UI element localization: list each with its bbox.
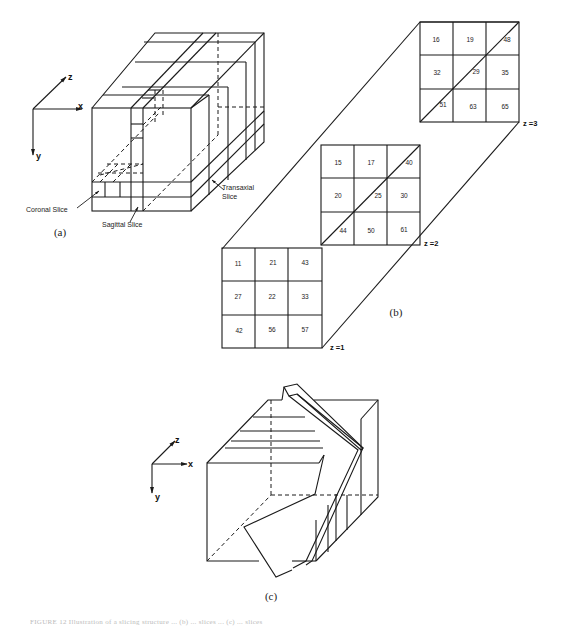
- cell: 22: [268, 293, 276, 300]
- cell: 21: [269, 259, 277, 266]
- slice-grid-z1: 11 21 43 27 22 33 42 56 57 z =1: [222, 248, 344, 352]
- axis-y-label: y: [155, 492, 160, 502]
- cell: 27: [234, 293, 242, 300]
- transaxial-slice-label-2: Slice: [222, 193, 237, 200]
- cell: 32: [433, 69, 441, 76]
- coronal-slice-label: Coronal Slice: [26, 206, 68, 213]
- panel-b-label: (b): [390, 306, 403, 319]
- slice-label-z1: z =1: [330, 343, 344, 352]
- axis-z-label: z: [68, 72, 73, 82]
- panel-b: 16 19 48 32 29 35 51 63 65 z =3 15 17 40…: [222, 22, 537, 352]
- slice-label-z2: z =2: [424, 239, 438, 248]
- cell: 35: [501, 69, 509, 76]
- slice-grid-z3: 16 19 48 32 29 35 51 63 65 z =3: [420, 22, 537, 128]
- cell: 19: [466, 36, 474, 43]
- panel-c: z x y: [152, 384, 378, 603]
- axis-y-label: y: [36, 151, 41, 161]
- cell: 56: [268, 326, 276, 333]
- panel-a-label: (a): [54, 226, 67, 239]
- slice-label-z3: z =3: [523, 119, 537, 128]
- cell: 11: [235, 260, 242, 267]
- cell: 51: [439, 101, 447, 108]
- axis-z-label: z: [175, 435, 180, 445]
- cell: 20: [334, 192, 342, 199]
- figure-caption: FIGURE 12 Illustration of a slicing stru…: [30, 618, 550, 626]
- cell: 57: [301, 326, 309, 333]
- cell: 30: [400, 192, 408, 199]
- panel-a: z x y: [26, 33, 264, 239]
- cell: 15: [334, 159, 342, 166]
- slice-grid-z2: 15 17 40 20 25 30 44 50 61 z =2: [321, 145, 438, 248]
- sagittal-slice-label: Sagittal Slice: [102, 221, 143, 229]
- cell: 29: [472, 68, 480, 75]
- cell: 65: [501, 103, 509, 110]
- cell: 44: [339, 227, 347, 234]
- figure-canvas: z x y: [0, 0, 563, 631]
- axes-c-icon: z x y: [152, 435, 193, 502]
- panel-c-label: (c): [265, 590, 278, 603]
- cell: 63: [469, 103, 477, 110]
- cell: 17: [367, 159, 375, 166]
- cell: 61: [400, 226, 408, 233]
- cell: 16: [432, 36, 440, 43]
- slice-annotations: Coronal Slice Sagittal Slice Transaxial …: [26, 180, 254, 229]
- axis-x-label: x: [78, 101, 83, 111]
- cell: 40: [405, 159, 413, 166]
- cell: 48: [503, 36, 511, 43]
- cell: 33: [301, 293, 309, 300]
- sliced-object: [207, 384, 378, 577]
- cell: 42: [235, 327, 243, 334]
- cell: 50: [367, 227, 375, 234]
- cell: 43: [301, 259, 309, 266]
- axes-a-icon: z x y: [33, 72, 83, 161]
- axis-x-label: x: [188, 459, 193, 469]
- transaxial-slice-label: Transaxial: [222, 184, 254, 191]
- cell: 25: [374, 192, 382, 199]
